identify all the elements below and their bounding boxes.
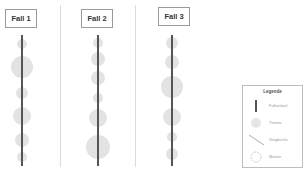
case-timeline-1: [11, 35, 33, 166]
dashed-circle-icon: [247, 150, 267, 164]
case-timeline-2: [86, 35, 110, 166]
legend-label: Thema: [269, 120, 281, 125]
legend-item-fallverlauf: Fallverlauf: [247, 99, 302, 113]
legend-label: Fallverlauf: [269, 103, 287, 108]
bar-icon: [247, 99, 267, 113]
case-timeline-3: [161, 35, 183, 166]
legend-label: Muster: [269, 154, 281, 159]
circle-icon: [247, 116, 267, 130]
legend-label: Vergleiche: [269, 137, 288, 142]
legend-item-muster: Muster: [247, 150, 302, 164]
case-course-line: [171, 35, 173, 166]
legend-item-vergleiche: Vergleiche: [247, 133, 302, 147]
legend: Legende Fallverlauf Thema Vergleiche Mus…: [242, 85, 303, 168]
case-course-line: [21, 35, 23, 166]
legend-title: Legende: [243, 89, 302, 94]
legend-item-thema: Thema: [247, 116, 302, 130]
diagonal-line-icon: [247, 133, 267, 147]
case-course-line: [97, 35, 99, 166]
